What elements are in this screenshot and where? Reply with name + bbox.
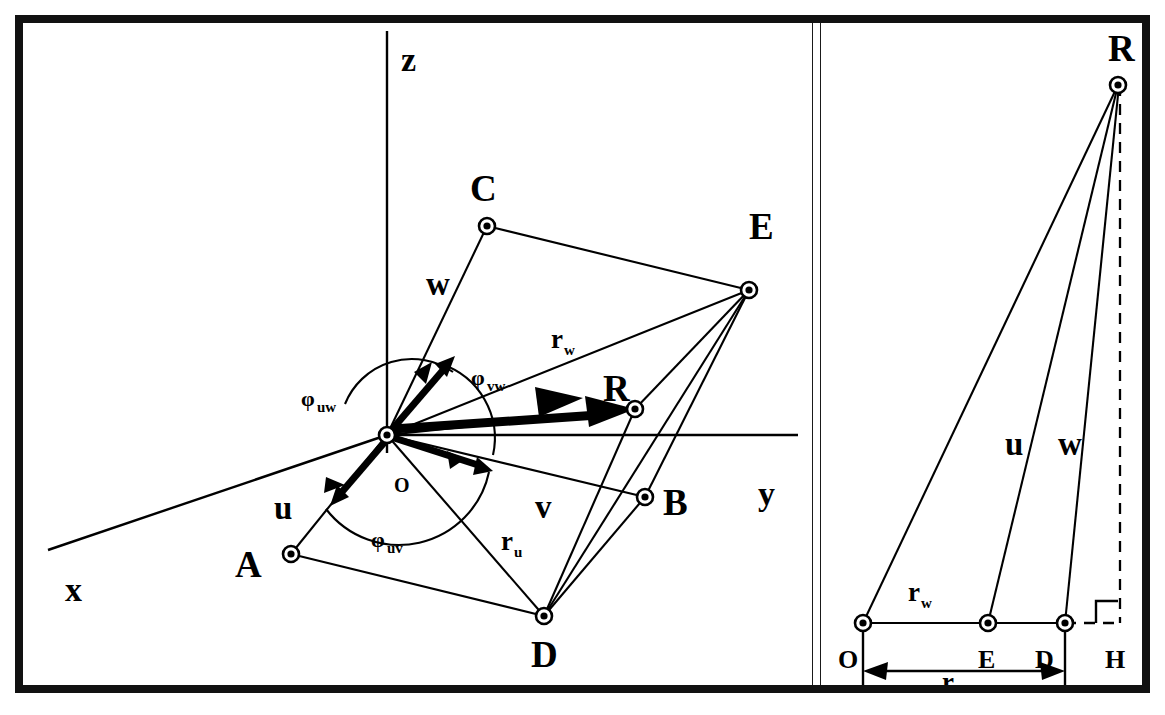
segment-D-R-w	[1065, 85, 1119, 623]
point-node-D	[536, 608, 552, 624]
point-label-D: D	[531, 634, 558, 675]
point-node-O-right	[855, 615, 871, 631]
point-label-E-right: E	[978, 645, 995, 674]
point-node-D-right	[1057, 615, 1073, 631]
edge-D-B	[544, 497, 645, 616]
radius-label-rw-right: r w	[908, 577, 932, 611]
segment-label-w-right: w	[1058, 426, 1082, 462]
axis-label-y: y	[758, 475, 775, 512]
vector-label-w: w	[426, 266, 450, 302]
point-node-C	[479, 218, 495, 234]
svg-text:φ: φ	[471, 365, 485, 390]
svg-text:φ: φ	[301, 386, 315, 411]
left-panel-3d-vectors: z y x C E R B A D O w u v φ uw	[23, 23, 813, 685]
point-label-R-right: R	[1108, 28, 1136, 69]
vector-label-v: v	[535, 489, 552, 525]
edge-C-O	[387, 226, 487, 435]
axis-label-z: z	[401, 41, 416, 78]
left-panel-canvas: z y x C E R B A D O w u v φ uw	[23, 23, 813, 685]
axis-label-x: x	[65, 571, 82, 608]
angle-label-phi-uw: φ uw	[301, 386, 336, 415]
right-panel-canvas: R O E D H u w r w r u	[820, 23, 1142, 685]
point-node-E-right	[980, 615, 996, 631]
svg-text:r: r	[942, 667, 954, 685]
figure-root: z y x C E R B A D O w u v φ uw	[0, 0, 1165, 715]
angle-label-phi-vw: φ vw	[471, 365, 506, 394]
svg-text:uv: uv	[387, 540, 403, 556]
svg-text:φ: φ	[371, 527, 385, 552]
right-panel-projection: R O E D H u w r w r u	[820, 23, 1142, 685]
edge-R-D	[544, 409, 635, 616]
vector-u-arrow	[324, 437, 389, 506]
svg-text:u: u	[514, 544, 522, 560]
point-label-B: B	[663, 482, 688, 523]
point-node-E	[741, 282, 757, 298]
point-node-O	[379, 427, 395, 443]
edge-C-E	[487, 226, 749, 290]
svg-text:uw: uw	[317, 399, 336, 415]
vector-label-u: u	[274, 490, 292, 526]
point-label-A: A	[235, 544, 262, 585]
svg-text:r: r	[551, 324, 563, 354]
point-label-H-right: H	[1105, 645, 1125, 674]
origin-label-O: O	[394, 474, 410, 496]
point-label-C: C	[470, 168, 497, 209]
segment-E-R-u	[988, 85, 1118, 623]
radius-label-rw-left: r w	[551, 324, 575, 358]
figure-outer-frame: z y x C E R B A D O w u v φ uw	[15, 15, 1150, 693]
edge-E-B	[645, 290, 749, 497]
angle-label-phi-uv: φ uv	[371, 527, 403, 556]
svg-text:r: r	[501, 526, 513, 556]
point-label-D-right: D	[1035, 645, 1054, 674]
svg-text:w: w	[921, 595, 932, 611]
segment-O-R	[863, 85, 1118, 623]
edge-E-R	[635, 290, 749, 409]
point-node-A	[283, 546, 299, 562]
edge-E-D	[544, 290, 749, 616]
svg-text:vw: vw	[487, 378, 506, 394]
svg-text:r: r	[908, 577, 920, 607]
svg-text:w: w	[564, 342, 575, 358]
radius-label-ru-left: r u	[501, 526, 522, 560]
right-angle-icon	[1096, 601, 1118, 623]
point-node-B	[637, 489, 653, 505]
segment-label-u-right: u	[1005, 426, 1023, 462]
point-label-E: E	[749, 206, 774, 247]
point-label-O-right: O	[838, 645, 858, 674]
edge-A-D	[291, 554, 544, 616]
edge-O-B	[387, 435, 645, 497]
point-label-R: R	[603, 368, 631, 409]
vector-R-arrow	[393, 387, 635, 429]
point-node-R-right	[1110, 77, 1126, 93]
